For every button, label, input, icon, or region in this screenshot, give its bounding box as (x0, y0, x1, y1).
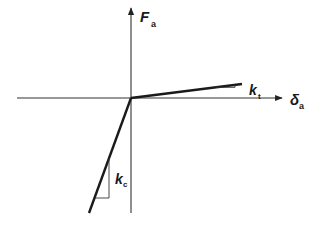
compression-branch-line (89, 98, 131, 213)
x-axis-subscript: a (299, 101, 305, 111)
tension-branch-line (131, 84, 242, 98)
kt-label: k (249, 82, 258, 98)
force-displacement-diagram: F a δ a k t k c (0, 0, 318, 225)
kt-subscript: t (258, 92, 261, 101)
y-axis-subscript: a (151, 19, 157, 29)
kc-subscript: c (123, 180, 128, 189)
y-axis-label: F (140, 8, 150, 25)
